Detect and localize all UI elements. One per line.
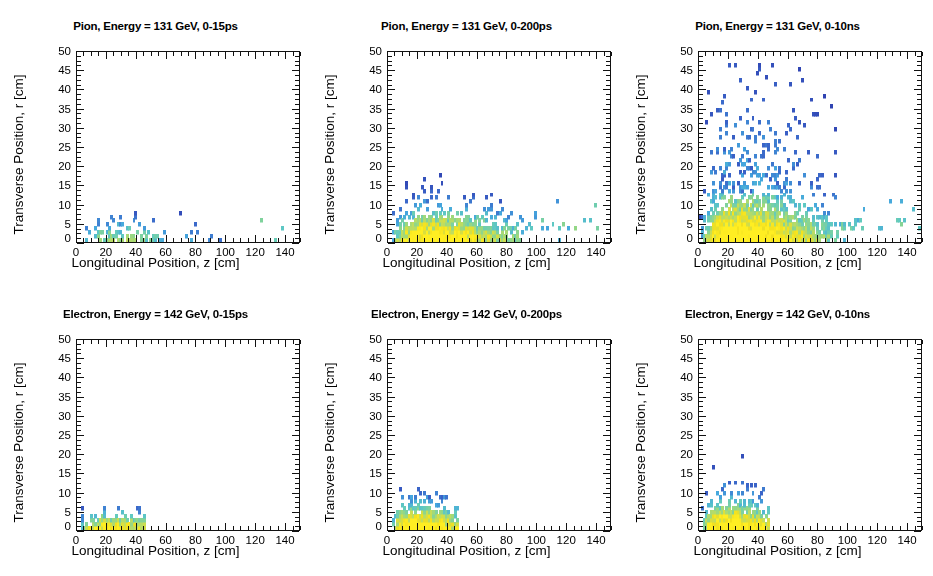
y-tick — [699, 425, 703, 426]
x-tick — [158, 238, 159, 242]
y-tick — [606, 94, 610, 95]
x-tick — [293, 340, 294, 344]
y-tick — [603, 416, 610, 417]
y-tick — [77, 157, 81, 158]
y-tick — [77, 243, 84, 244]
x-tick — [210, 340, 211, 344]
x-tick — [424, 238, 425, 242]
x-tick — [862, 52, 863, 56]
x-tick — [825, 238, 826, 242]
x-tick — [188, 238, 189, 242]
y-tick-label: 10 — [666, 199, 693, 211]
y-tick — [917, 113, 921, 114]
y-tick — [699, 445, 703, 446]
x-tick — [432, 340, 433, 344]
y-tick — [295, 459, 299, 460]
y-tick — [699, 176, 703, 177]
x-tick — [840, 52, 841, 56]
x-tick — [810, 238, 811, 242]
y-tick — [606, 469, 610, 470]
y-tick-label: 25 — [44, 429, 71, 441]
y-tick-label: 5 — [355, 506, 382, 518]
y-tick — [77, 512, 84, 513]
x-tick — [121, 526, 122, 530]
y-tick — [77, 200, 81, 201]
x-tick — [166, 523, 167, 530]
y-tick — [603, 224, 610, 225]
x-tick — [795, 340, 796, 344]
y-tick — [77, 104, 81, 105]
y-tick — [606, 190, 610, 191]
y-tick — [295, 171, 299, 172]
y-tick — [606, 161, 610, 162]
y-tick — [388, 200, 392, 201]
y-tick — [917, 469, 921, 470]
y-tick — [388, 349, 392, 350]
y-tick — [388, 137, 392, 138]
y-tick — [606, 85, 610, 86]
heatmap-electron-0-10ns — [699, 340, 921, 530]
x-tick — [907, 523, 908, 530]
y-tick — [699, 411, 703, 412]
x-tick — [529, 238, 530, 242]
y-tick — [295, 425, 299, 426]
y-tick — [295, 382, 299, 383]
y-tick — [699, 142, 703, 143]
y-tick — [603, 397, 610, 398]
y-tick — [699, 157, 703, 158]
y-tick — [699, 397, 706, 398]
y-tick-label: 20 — [355, 160, 382, 172]
x-tick — [870, 526, 871, 530]
plot-frame — [698, 51, 922, 243]
x-tick — [795, 526, 796, 530]
panel-title: Electron, Energy = 142 GeV, 0-10ns — [622, 308, 933, 320]
y-tick — [699, 353, 703, 354]
panel-title: Pion, Energy = 131 GeV, 0-15ps — [0, 20, 311, 32]
y-tick — [917, 421, 921, 422]
y-tick — [917, 80, 921, 81]
y-tick — [295, 161, 299, 162]
x-tick — [604, 526, 605, 530]
x-tick — [98, 340, 99, 344]
y-tick — [603, 512, 610, 513]
y-tick-label: 30 — [355, 410, 382, 422]
x-tick — [521, 340, 522, 344]
x-tick — [817, 340, 818, 347]
y-tick — [295, 133, 299, 134]
x-tick — [536, 235, 537, 242]
x-tick — [143, 526, 144, 530]
x-tick — [915, 238, 916, 242]
x-axis-title: Longitudinal Position, z [cm] — [0, 255, 311, 270]
y-tick — [292, 185, 299, 186]
x-tick — [728, 523, 729, 530]
x-tick — [817, 52, 818, 59]
y-tick — [292, 51, 299, 52]
x-tick — [248, 526, 249, 530]
y-tick — [699, 493, 706, 494]
y-tick — [917, 483, 921, 484]
x-tick — [514, 52, 515, 56]
y-axis-title: Transverse Position, r [cm] — [11, 55, 26, 255]
y-tick — [388, 104, 392, 105]
y-tick — [388, 406, 392, 407]
y-tick — [77, 349, 81, 350]
y-tick — [917, 229, 921, 230]
y-tick — [77, 454, 84, 455]
y-tick — [292, 531, 299, 532]
x-tick — [529, 52, 530, 56]
x-tick — [832, 340, 833, 344]
y-tick — [388, 454, 395, 455]
y-tick — [388, 219, 392, 220]
y-tick — [77, 517, 81, 518]
y-tick — [917, 349, 921, 350]
x-tick — [477, 340, 478, 347]
x-tick — [432, 52, 433, 56]
y-tick — [295, 445, 299, 446]
x-tick — [136, 340, 137, 347]
y-tick — [388, 51, 395, 52]
x-tick — [285, 523, 286, 530]
y-tick — [699, 109, 706, 110]
x-tick — [402, 238, 403, 242]
x-tick — [544, 526, 545, 530]
x-tick — [574, 340, 575, 344]
